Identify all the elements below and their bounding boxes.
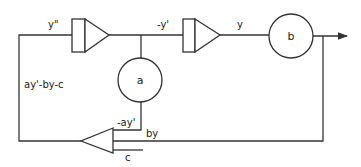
integrator-2 — [183, 19, 220, 52]
label-by: by — [146, 128, 158, 139]
coef-a-label: a — [137, 74, 144, 87]
label-c: c — [125, 152, 131, 163]
block-diagram: b a y" -y' y ay'-by-c -ay' by c — [0, 0, 361, 167]
label-y: y — [237, 19, 243, 30]
label-feedback: ay'-by-c — [24, 79, 64, 90]
coefficient-a-circle: a — [118, 58, 162, 102]
label-neg-y-prime: -y' — [157, 19, 169, 30]
label-neg-ay-prime: -ay' — [117, 117, 135, 128]
coef-b-label: b — [288, 30, 295, 43]
coefficient-b-circle: b — [269, 14, 313, 58]
summing-amplifier — [81, 128, 113, 153]
label-y-double-prime: y" — [48, 19, 59, 30]
integrator-1 — [72, 19, 109, 52]
